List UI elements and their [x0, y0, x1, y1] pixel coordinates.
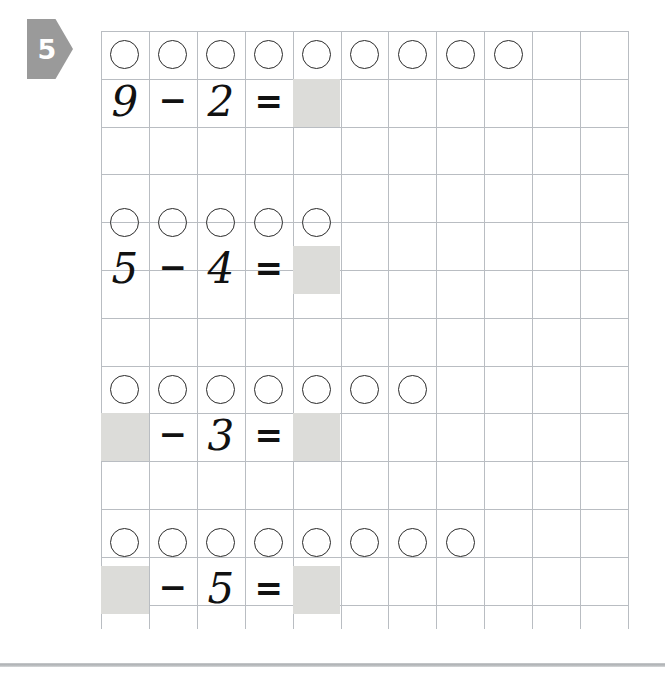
exercise-number-marker: 5 [27, 19, 73, 79]
equals-sign-icon: = [254, 251, 283, 285]
minus-sign-icon: − [159, 417, 188, 451]
counter-circle-icon [302, 40, 331, 69]
counter-cell [101, 31, 149, 79]
counter-cell [293, 198, 341, 246]
counter-cell [197, 198, 245, 246]
counter-circle-icon [446, 40, 475, 69]
counter-circle-icon [254, 375, 283, 404]
minuend-value: 5 [101, 246, 149, 294]
counter-circle-icon [110, 40, 139, 69]
minus-sign-icon: − [159, 570, 188, 604]
counter-cell [436, 31, 484, 79]
counter-circle-icon [350, 528, 379, 557]
minus-sign-icon: − [159, 250, 188, 284]
counter-cell [388, 366, 436, 414]
counter-cell [149, 519, 197, 567]
counter-cell [197, 31, 245, 79]
counter-cell [101, 519, 149, 567]
subtrahend-value: 4 [197, 246, 245, 294]
equals-operator-cell: = [245, 79, 293, 127]
grid-horizontal-line [101, 127, 628, 128]
subtrahend-value: 2 [197, 79, 245, 127]
counter-circle-icon [110, 375, 139, 404]
grid-vertical-line [628, 31, 629, 629]
counter-cell [436, 519, 484, 567]
result-answer-box[interactable] [293, 413, 341, 461]
counter-cell [388, 31, 436, 79]
counter-cell [149, 366, 197, 414]
counter-circle-icon [158, 208, 187, 237]
counter-cell [197, 519, 245, 567]
counter-cell [245, 198, 293, 246]
counter-circle-icon [206, 40, 235, 69]
minus-operator-cell: − [149, 79, 197, 127]
counter-circle-icon [206, 375, 235, 404]
minuend-answer-box[interactable] [101, 413, 149, 461]
subtrahend-value: 3 [197, 413, 245, 461]
counter-cell [101, 366, 149, 414]
grid-horizontal-line [101, 318, 628, 319]
counter-cell [149, 31, 197, 79]
counter-cell [245, 519, 293, 567]
counter-circle-icon [302, 528, 331, 557]
minuend-digit: 5 [112, 248, 139, 290]
counter-cell [293, 31, 341, 79]
counter-cell [341, 519, 389, 567]
counter-cell [341, 31, 389, 79]
counter-circle-icon [494, 40, 523, 69]
equals-sign-icon: = [254, 571, 283, 605]
grid-horizontal-line [101, 174, 628, 175]
counter-cell [293, 519, 341, 567]
counter-circle-icon [110, 208, 139, 237]
counter-circle-icon [302, 208, 331, 237]
equals-sign-icon: = [254, 418, 283, 452]
grid-horizontal-line [101, 509, 628, 510]
counter-cell [293, 366, 341, 414]
counter-circle-icon [206, 208, 235, 237]
counter-circle-icon [350, 375, 379, 404]
counter-cell [388, 519, 436, 567]
counter-circle-icon [446, 528, 475, 557]
minuend-answer-box[interactable] [101, 566, 149, 614]
counter-cell [197, 366, 245, 414]
counter-circle-icon [254, 528, 283, 557]
worksheet-grid: 9−2=5−4=−3=−5= [101, 31, 628, 629]
counter-circle-icon [302, 375, 331, 404]
minuend-value: 9 [101, 79, 149, 127]
minuend-digit: 9 [112, 81, 139, 123]
equals-operator-cell: = [245, 246, 293, 294]
subtrahend-digit: 2 [207, 81, 234, 123]
minus-operator-cell: − [149, 246, 197, 294]
equals-operator-cell: = [245, 566, 293, 614]
counter-circle-icon [206, 528, 235, 557]
equals-operator-cell: = [245, 413, 293, 461]
counter-cell [245, 366, 293, 414]
minus-operator-cell: − [149, 413, 197, 461]
counter-circle-icon [110, 528, 139, 557]
exercise-number-label: 5 [27, 19, 67, 79]
counter-cell [341, 366, 389, 414]
counter-circle-icon [398, 375, 427, 404]
subtrahend-digit: 5 [207, 568, 234, 610]
counter-cell [484, 31, 532, 79]
counter-cell [149, 198, 197, 246]
counter-circle-icon [350, 40, 379, 69]
counter-cell [245, 31, 293, 79]
counter-circle-icon [254, 208, 283, 237]
result-answer-box[interactable] [293, 79, 341, 127]
result-answer-box[interactable] [293, 566, 341, 614]
equals-sign-icon: = [254, 84, 283, 118]
grid-vertical-line [532, 31, 533, 629]
counter-circle-icon [158, 375, 187, 404]
minus-sign-icon: − [159, 83, 188, 117]
counter-circle-icon [158, 528, 187, 557]
counter-circle-icon [254, 40, 283, 69]
counter-circle-icon [398, 40, 427, 69]
counter-circle-icon [158, 40, 187, 69]
minus-operator-cell: − [149, 566, 197, 614]
subtrahend-digit: 3 [207, 415, 234, 457]
subtrahend-digit: 4 [207, 248, 234, 290]
result-answer-box[interactable] [293, 246, 341, 294]
subtrahend-value: 5 [197, 566, 245, 614]
grid-vertical-line [580, 31, 581, 629]
